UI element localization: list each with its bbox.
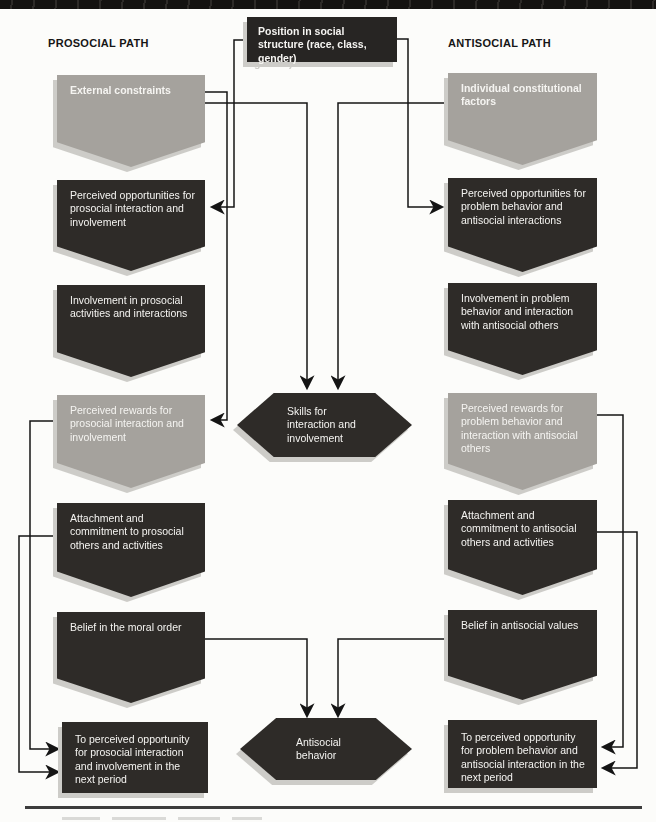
node-constitutional-factors: Individual constitutional factors <box>448 73 597 165</box>
edge-antisocial-values-to-antisocial-behavior <box>338 639 448 716</box>
edge-external-constraints-to-prosocial-rewards <box>205 92 227 420</box>
node-belief-antisocial-values: Belief in antisocial values <box>448 610 597 700</box>
node-position-in-social-structure: Position in social structure (race, clas… <box>247 17 397 62</box>
edge-antisocial-attachment-to-next-period <box>597 532 637 768</box>
edge-moral-order-to-antisocial-behavior <box>205 639 307 716</box>
node-label: Antisocial behavior <box>296 736 368 763</box>
node-belief-moral-order: Belief in the moral order <box>57 612 205 703</box>
node-prosocial-attachment: Attachment and commitment to prosocial o… <box>57 503 205 597</box>
node-label: External constraints <box>70 84 171 96</box>
node-label: Perceived opportunities for prosocial in… <box>70 189 195 228</box>
bottom-rule <box>25 806 642 809</box>
node-prosocial-rewards: Perceived rewards for prosocial interact… <box>57 395 205 488</box>
antisocial-path-header: ANTISOCIAL PATH <box>448 37 551 49</box>
edge-position-to-antisocial-opportunities <box>397 39 442 207</box>
node-antisocial-involvement: Involvement in problem behavior and inte… <box>448 283 597 375</box>
node-label: Attachment and commitment to prosocial o… <box>70 512 184 551</box>
edge-prosocial-attachment-to-next-period <box>19 536 58 772</box>
node-label: Position in social structure (race, clas… <box>258 25 367 64</box>
cropped-caption-remnant <box>232 817 262 820</box>
edge-position-to-prosocial-opportunities <box>212 40 247 207</box>
page-top-scan-edge <box>0 0 656 9</box>
node-label: Individual constitutional factors <box>461 82 582 107</box>
node-label: Skills for interaction and involvement <box>287 405 373 445</box>
node-label: Belief in the moral order <box>70 621 181 633</box>
node-label: To perceived opportunity for prosocial i… <box>75 733 189 785</box>
node-prosocial-next-period: To perceived opportunity for prosocial i… <box>62 722 208 793</box>
node-label: Perceived rewards for prosocial interact… <box>70 404 184 443</box>
node-antisocial-rewards: Perceived rewards for problem behavior a… <box>448 393 597 490</box>
node-label: Involvement in prosocial activities and … <box>70 294 187 319</box>
edge-constitutional-factors-to-skills <box>338 103 448 388</box>
node-antisocial-behavior: Antisocial behavior <box>240 718 412 780</box>
flow-diagram-social-development-model: PROSOCIAL PATH ANTISOCIAL PATH Position … <box>0 0 656 822</box>
node-label: Perceived opportunities for problem beha… <box>461 187 586 226</box>
cropped-caption-remnant <box>178 817 220 820</box>
node-prosocial-involvement: Involvement in prosocial activities and … <box>57 285 205 377</box>
node-label: Belief in antisocial values <box>461 619 578 631</box>
edge-antisocial-rewards-to-next-period <box>597 415 623 747</box>
node-label: To perceived opportunity for problem beh… <box>461 731 585 783</box>
node-external-constraints: External constraints <box>57 75 205 167</box>
prosocial-path-header: PROSOCIAL PATH <box>48 37 149 49</box>
node-label: Perceived rewards for problem behavior a… <box>461 402 578 454</box>
cropped-caption-remnant <box>62 817 100 820</box>
node-label: Attachment and commitment to antisocial … <box>461 509 577 548</box>
edge-external-constraints-to-skills <box>205 103 307 388</box>
node-antisocial-attachment: Attachment and commitment to antisocial … <box>448 500 597 595</box>
node-prosocial-opportunities: Perceived opportunities for prosocial in… <box>57 180 205 271</box>
node-antisocial-opportunities: Perceived opportunities for problem beha… <box>448 178 597 272</box>
node-skills-for-interaction: Skills for interaction and involvement <box>237 393 412 457</box>
edge-prosocial-rewards-to-next-period <box>30 421 58 749</box>
node-antisocial-next-period: To perceived opportunity for problem beh… <box>448 720 597 788</box>
node-label: Involvement in problem behavior and inte… <box>461 292 573 331</box>
cropped-caption-remnant <box>112 817 166 820</box>
